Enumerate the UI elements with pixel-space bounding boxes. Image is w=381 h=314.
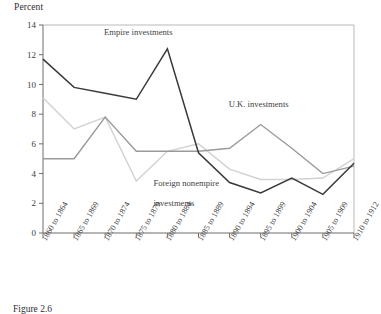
series-annotation: Foreign nonempire: [153, 178, 219, 188]
y-tick-label: 2: [32, 198, 37, 208]
series-annotations-group: Empire investmentsU.K. investmentsForeig…: [104, 27, 289, 207]
data-series-group: [43, 49, 354, 195]
y-tick-label: 8: [32, 109, 37, 119]
series-annotation: Empire investments: [104, 27, 173, 37]
series-annotation: U.K. investments: [229, 99, 290, 109]
series-line: [43, 49, 354, 195]
y-tick-label: 6: [32, 139, 37, 149]
series-line: [43, 98, 354, 181]
y-tick-label: 12: [27, 50, 36, 60]
y-axis-title: Percent: [14, 2, 43, 12]
y-axis-ticks: 02468101214: [27, 20, 43, 238]
figure-caption: Figure 2.6: [13, 304, 52, 314]
y-tick-label: 10: [27, 80, 37, 90]
x-axis-labels: 1860 to 18641865 to 18691870 to 18741875…: [0, 236, 372, 302]
series-line: [43, 117, 354, 173]
axes-group: [43, 25, 354, 233]
y-tick-label: 14: [27, 20, 37, 30]
y-tick-label: 4: [32, 169, 37, 179]
